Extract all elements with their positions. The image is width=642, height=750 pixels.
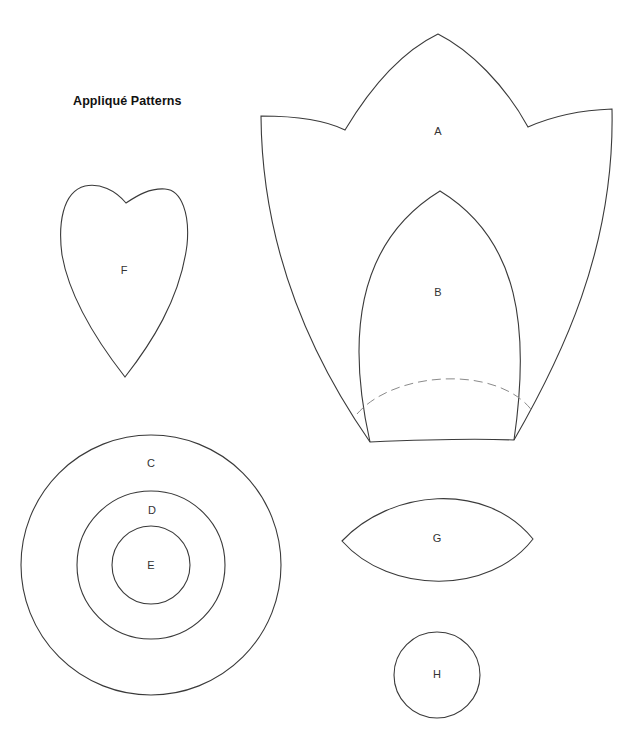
piece-a-outline — [261, 34, 612, 442]
label-a: A — [434, 125, 441, 137]
label-d: D — [148, 504, 156, 516]
label-c: C — [147, 457, 155, 469]
piece-b-outline — [359, 191, 520, 442]
label-g: G — [433, 532, 442, 544]
placement-dashed-line — [357, 379, 533, 414]
label-e: E — [147, 559, 154, 571]
piece-f-outline — [61, 185, 188, 377]
label-b: B — [434, 286, 441, 298]
label-h: H — [433, 668, 441, 680]
label-f: F — [121, 264, 128, 276]
pattern-canvas — [0, 0, 642, 750]
